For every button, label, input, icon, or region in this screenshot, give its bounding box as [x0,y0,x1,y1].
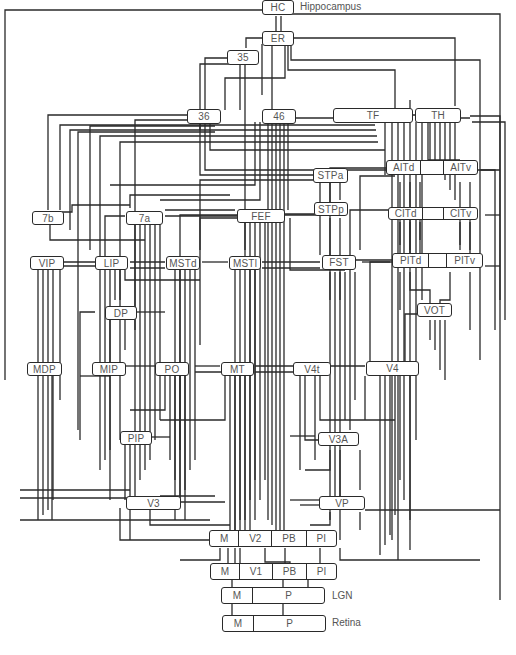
node-V2-PB: PB [271,531,305,546]
node-AIT-group: AITd AITv [386,160,478,175]
node-CIT-group: CITd CITv [388,207,478,220]
node-label: DP [114,308,128,319]
node-label: AITd [393,162,414,173]
node-label: 7b [42,213,54,224]
node-V2-M: M [210,531,238,546]
node-V1-PB: PB [272,564,306,579]
node-AIT-mid [420,161,443,174]
node-label: 7a [139,213,151,224]
node-V2: V2 [238,531,271,546]
cell-label: V1 [250,566,262,577]
cell-label: PB [283,566,296,577]
node-DP: DP [105,306,137,320]
node-Retina-P: P [253,616,325,631]
node-STPp: STPp [314,202,348,216]
node-label: TF [367,110,380,121]
cell-label: M [221,566,229,577]
node-CITv: CITv [443,208,477,219]
node-36: 36 [187,109,221,124]
node-label: PITd [400,255,421,266]
node-PIT-mid [428,254,446,267]
node-MIP: MIP [92,362,126,376]
connection-wires [0,0,516,655]
cell-label: P [285,590,292,601]
node-CIT-mid [422,208,443,219]
cell-label: PI [317,533,326,544]
node-label: STPa [318,170,344,181]
node-label: MSTl [233,258,257,269]
node-label: FEF [251,211,271,222]
node-LGN-M: M [222,588,252,603]
node-7b: 7b [32,211,64,225]
node-V4t: V4t [293,362,331,376]
cell-label: M [220,533,228,544]
node-V1-M: M [211,564,239,579]
node-label: MIP [100,364,118,375]
node-TH: TH [415,108,461,123]
node-TF: TF [333,108,413,123]
node-label: 36 [198,111,210,122]
node-V4: V4 [366,361,419,376]
node-AITv: AITv [443,161,477,174]
node-label: VP [335,498,349,509]
node-label: 35 [237,52,249,63]
node-MSTl: MSTl [229,256,261,270]
node-label: V3A [329,434,349,445]
node-V3: V3 [126,496,181,510]
node-LGN: M P [221,587,325,604]
node-PO: PO [155,362,189,376]
node-label: MDP [33,364,56,375]
node-label: V3 [147,498,160,509]
node-label: HC [271,2,286,13]
node-V1-row: M V1 PB PI [210,563,337,580]
node-46: 46 [262,109,296,124]
node-label: 46 [273,111,285,122]
node-label: V4 [386,363,399,374]
cell-label: M [233,590,241,601]
node-label: AITv [450,162,471,173]
node-Retina-M: M [223,616,253,631]
node-PITd: PITd [393,254,428,267]
node-label: MT [230,364,245,375]
node-label: PO [165,364,180,375]
node-label: VOT [424,305,445,316]
node-FEF: FEF [237,209,285,223]
node-VOT: VOT [417,303,452,317]
node-label: FST [329,257,349,268]
node-V3A: V3A [318,432,359,446]
cell-label: PI [317,566,326,577]
node-7a: 7a [126,211,163,225]
node-label: VIP [39,258,56,269]
node-STPa: STPa [313,168,348,183]
node-label: STPp [318,204,344,215]
node-PITv: PITv [446,254,482,267]
node-ER: ER [262,31,294,46]
node-AITd: AITd [387,161,420,174]
node-CITd: CITd [389,208,422,219]
node-Retina: M P [222,615,326,632]
node-PIT-group: PITd PITv [392,253,483,268]
node-35: 35 [227,50,259,65]
cell-label: M [234,618,242,629]
node-label: TH [431,110,445,121]
node-LIP: LIP [95,256,128,270]
label-hippocampus: Hippocampus [300,1,361,12]
node-label: CITd [395,208,417,219]
label-retina: Retina [332,617,361,628]
node-LGN-P: P [252,588,324,603]
node-VP: VP [319,496,365,510]
node-V2-row: M V2 PB PI [209,530,337,547]
node-label: PIP [128,433,145,444]
node-V1: V1 [239,564,272,579]
cell-label: V2 [249,533,261,544]
node-HC: HC [262,0,294,15]
node-PIP: PIP [120,431,152,445]
node-VIP: VIP [30,256,64,270]
node-V1-PI: PI [306,564,336,579]
node-label: PITv [454,255,475,266]
cell-label: P [286,618,293,629]
node-label: CITv [450,208,471,219]
node-label: V4t [304,364,320,375]
node-V2-PI: PI [306,531,336,546]
label-lgn: LGN [332,590,353,601]
